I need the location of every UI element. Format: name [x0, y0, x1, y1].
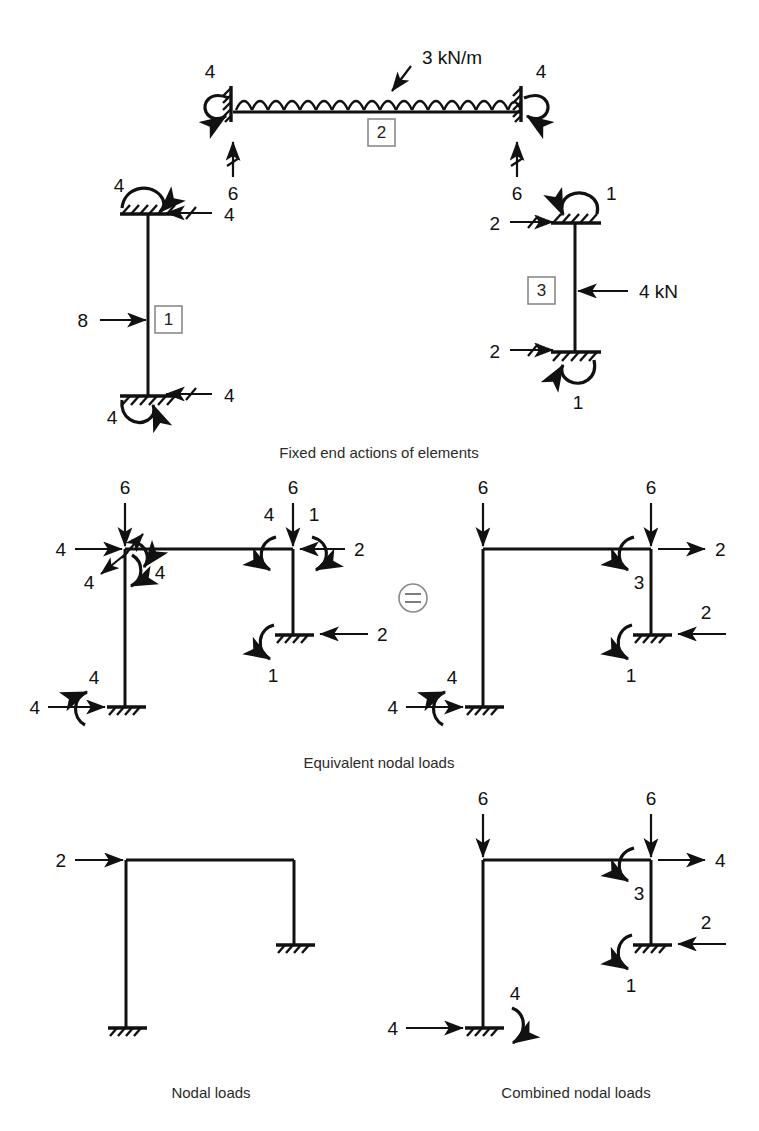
enl2-base-left-moment-label: 4 [447, 667, 458, 688]
udl-label: 3 kN/m [422, 47, 482, 68]
cnl-topright-moment-label: 3 [634, 883, 645, 904]
enl-left-joint-moment-beam-label: 4 [155, 562, 166, 583]
left-column-point-load-label: 8 [77, 310, 88, 331]
enl-left-topleft-horizontal-label: 4 [55, 539, 66, 560]
enl-left-topright-vertical-label: 6 [288, 477, 299, 498]
enl-left-topright-moment-left-label: 4 [264, 504, 275, 525]
enl-left-base-right-moment-label: 1 [268, 665, 279, 686]
caption-equivalent-nodal-loads: Equivalent nodal loads [304, 754, 455, 771]
cnl-base-left-horizontal-label: 4 [387, 1018, 398, 1039]
cnl-base-right-moment-label: 1 [626, 975, 637, 996]
enl-left-base-right-horizontal-label: 2 [377, 624, 388, 645]
nl-topleft-horizontal-label: 2 [55, 850, 66, 871]
enl-left-topright-moment-right-label: 1 [309, 504, 320, 525]
enl-left-base-left-horizontal-label: 4 [29, 697, 40, 718]
enl-left-topright-horizontal-label: 2 [354, 539, 365, 560]
structural-diagram: 3 kN/m 2 4 4 6 6 [0, 0, 759, 1131]
right-column-point-load-label: 4 kN [639, 281, 678, 302]
beam-left-moment-label: 4 [205, 61, 216, 82]
left-column-bottom-shear-label: 4 [224, 385, 235, 406]
enl2-base-right-moment-label: 1 [626, 665, 637, 686]
cnl-base-left-moment-label: 4 [510, 983, 521, 1004]
enl2-topright-horizontal-label: 2 [715, 539, 726, 560]
element-1-label: 1 [164, 310, 173, 329]
cnl-topright-horizontal-label: 4 [715, 850, 726, 871]
element-2-label: 2 [377, 123, 386, 142]
enl2-topright-moment-label: 3 [634, 572, 645, 593]
beam-right-moment-label: 4 [536, 61, 547, 82]
right-column-bottom-shear-label: 2 [489, 341, 500, 362]
caption-fixed-end-actions: Fixed end actions of elements [279, 444, 478, 461]
beam-right-reaction-label: 6 [512, 183, 523, 204]
cnl-topright-vertical-label: 6 [646, 788, 657, 809]
enl2-topright-vertical-label: 6 [646, 477, 657, 498]
right-column-top-moment-label: 1 [606, 183, 617, 204]
left-column-bottom-moment-label: 4 [107, 407, 118, 428]
element-3-label: 3 [537, 281, 546, 300]
cnl-base-right-horizontal-label: 2 [701, 912, 712, 933]
caption-combined-nodal-loads: Combined nodal loads [501, 1084, 650, 1101]
enl2-base-right-horizontal-label: 2 [701, 602, 712, 623]
enl2-base-left-horizontal-label: 4 [387, 697, 398, 718]
left-column-top-moment-label: 4 [114, 175, 125, 196]
enl2-topleft-vertical-label: 6 [478, 477, 489, 498]
right-column-top-shear-label: 2 [489, 213, 500, 234]
enl-left-joint-shear-label: 4 [84, 572, 95, 593]
enl-left-base-left-moment-label: 4 [89, 667, 100, 688]
beam-left-reaction-label: 6 [228, 183, 239, 204]
enl-left-topleft-vertical-label: 6 [120, 477, 131, 498]
caption-nodal-loads: Nodal loads [171, 1084, 250, 1101]
left-column-top-shear-label: 4 [224, 204, 235, 225]
right-column-bottom-moment-label: 1 [573, 392, 584, 413]
cnl-topleft-vertical-label: 6 [478, 788, 489, 809]
figure-canvas: 3 kN/m 2 4 4 6 6 [0, 0, 759, 1131]
